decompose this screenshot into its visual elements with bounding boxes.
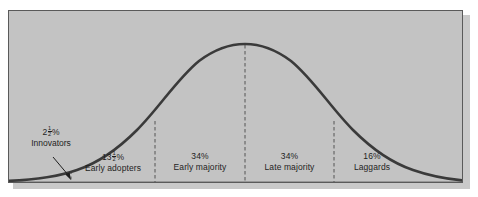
- callout-percent-symbol: %: [52, 127, 60, 137]
- segment-percent-early-majority: 34%: [155, 151, 245, 162]
- callout-percent-whole: 2: [42, 127, 47, 137]
- callout-percent: 212%: [42, 127, 59, 137]
- segment-percent-laggards: 16%: [334, 151, 410, 162]
- segment-percent-whole: 13: [102, 152, 112, 162]
- innovators-leader-line: [53, 157, 69, 176]
- segment-label-early-adopters: 1312% Early adopters: [71, 151, 155, 174]
- segment-percent-early-adopters: 1312%: [71, 151, 155, 163]
- callout-name: Innovators: [13, 138, 89, 149]
- diagram-plate: 212% Innovators 1312% Early adopters 34%…: [8, 10, 463, 183]
- diffusion-of-innovation-figure: 212% Innovators 1312% Early adopters 34%…: [0, 0, 478, 197]
- segment-fraction-denominator: 2: [112, 157, 116, 163]
- callout-fraction: 12: [48, 126, 52, 138]
- segment-label-early-majority: 34% Early majority: [155, 151, 245, 172]
- segment-name-early-adopters: Early adopters: [71, 163, 155, 174]
- segment-name-late-majority: Late majority: [245, 162, 334, 173]
- segment-label-laggards: 16% Laggards: [334, 151, 410, 172]
- callout-innovators: 212% Innovators: [13, 126, 89, 149]
- segment-fraction: 12: [112, 151, 116, 163]
- segment-name-laggards: Laggards: [334, 162, 410, 173]
- segment-percent-symbol: %: [116, 152, 124, 162]
- segment-label-late-majority: 34% Late majority: [245, 151, 334, 172]
- segment-percent-late-majority: 34%: [245, 151, 334, 162]
- segment-name-early-majority: Early majority: [155, 162, 245, 173]
- callout-fraction-denominator: 2: [48, 132, 52, 138]
